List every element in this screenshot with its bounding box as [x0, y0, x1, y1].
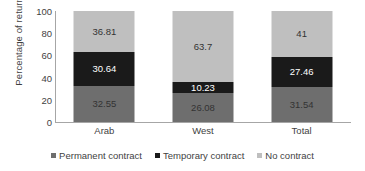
- bar-segment[interactable]: 41: [271, 11, 332, 57]
- legend-item-no-contract[interactable]: No contract: [257, 150, 314, 161]
- x-axis-label-total: Total: [292, 125, 312, 136]
- y-axis-tick-0: 0: [6, 117, 52, 128]
- y-axis-tick-40: 40: [6, 72, 52, 83]
- y-axis-tick-100: 100: [6, 6, 52, 17]
- stacked-bar-total[interactable]: 4127.4631.54: [271, 11, 332, 122]
- stacked-bar-chart: Percentage of returnees 020406080100 36.…: [0, 0, 365, 171]
- bar-group-west: 63.710.2326.08: [154, 11, 253, 122]
- y-axis-tick-60: 60: [6, 50, 52, 61]
- bar-value-label: 27.46: [290, 67, 314, 77]
- bar-value-label: 32.55: [92, 99, 116, 109]
- bar-segment[interactable]: 63.7: [172, 11, 233, 82]
- x-axis-category-labels: ArabWestTotal: [55, 125, 351, 141]
- bar-value-label: 26.08: [191, 103, 215, 113]
- stacked-bar-west[interactable]: 63.710.2326.08: [172, 11, 233, 122]
- chart-legend: Permanent contractTemporary contractNo c…: [0, 150, 365, 161]
- bar-value-label: 30.64: [92, 64, 116, 74]
- bar-segment[interactable]: 36.81: [74, 11, 135, 52]
- bar-group-total: 4127.4631.54: [252, 11, 351, 122]
- bar-segment[interactable]: 32.55: [74, 86, 135, 122]
- x-axis-line: [55, 122, 351, 123]
- legend-label: Permanent contract: [59, 150, 142, 161]
- legend-label: Temporary contract: [163, 150, 244, 161]
- legend-item-temporary-contract[interactable]: Temporary contract: [155, 150, 244, 161]
- stacked-bar-arab[interactable]: 36.8130.6432.55: [74, 11, 135, 122]
- legend-label: No contract: [265, 150, 314, 161]
- legend-swatch-icon: [155, 153, 160, 158]
- bars-layer: 36.8130.6432.5563.710.2326.084127.4631.5…: [55, 11, 351, 122]
- legend-swatch-icon: [257, 153, 262, 158]
- bar-value-label: 63.7: [194, 42, 213, 52]
- legend-swatch-icon: [51, 153, 56, 158]
- bar-value-label: 10.23: [191, 83, 215, 93]
- x-axis-label-west: West: [192, 125, 213, 136]
- bar-segment[interactable]: 31.54: [271, 87, 332, 122]
- bar-segment[interactable]: 30.64: [74, 52, 135, 86]
- bar-segment[interactable]: 27.46: [271, 57, 332, 87]
- bar-segment[interactable]: 10.23: [172, 82, 233, 93]
- bar-segment[interactable]: 26.08: [172, 93, 233, 122]
- y-axis-tick-20: 20: [6, 94, 52, 105]
- legend-item-permanent-contract[interactable]: Permanent contract: [51, 150, 142, 161]
- y-axis-tick-80: 80: [6, 28, 52, 39]
- bar-group-arab: 36.8130.6432.55: [55, 11, 154, 122]
- bar-value-label: 41: [296, 29, 307, 39]
- bar-value-label: 36.81: [92, 27, 116, 37]
- bar-value-label: 31.54: [290, 100, 314, 110]
- y-axis-tick-labels: 020406080100: [0, 0, 52, 133]
- x-axis-label-arab: Arab: [94, 125, 114, 136]
